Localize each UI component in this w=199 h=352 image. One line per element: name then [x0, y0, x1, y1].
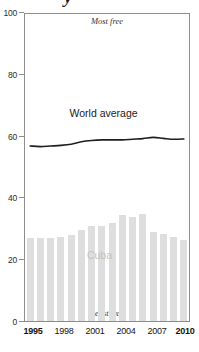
y-tick-100: 100 [0, 7, 24, 19]
y-tick-0: 0 [0, 316, 24, 328]
y-tick-label-100: 100 [3, 7, 17, 19]
y-tick-label-60: 60 [8, 131, 17, 143]
x-tick-1995: 1995 [23, 326, 42, 336]
series-label-cuba: Cuba [87, 249, 112, 261]
series-label-world-average: World average [70, 107, 138, 119]
y-tick-label-40: 40 [8, 192, 17, 204]
world-average-line-path [30, 137, 184, 146]
line-series-world-average [25, 14, 189, 321]
freedom-index-chart: y 100 80 60 40 20 0 Most free Lea [0, 0, 199, 352]
x-tick-2007: 2007 [147, 326, 166, 336]
y-tick-20: 20 [0, 254, 24, 266]
x-axis: 1995 1998 2001 2004 2007 2010 [24, 326, 190, 348]
y-tick-label-80: 80 [8, 69, 17, 81]
y-tick-80: 80 [0, 69, 24, 81]
y-tick-label-20: 20 [8, 254, 17, 266]
x-tick-2001: 2001 [85, 326, 104, 336]
y-tick-label-0: 0 [12, 316, 17, 328]
x-tick-1998: 1998 [54, 326, 73, 336]
cropped-title-descender: y [0, 0, 199, 11]
x-tick-2004: 2004 [116, 326, 135, 336]
y-tick-60: 60 [0, 131, 24, 143]
plot-area: Most free Least free [24, 13, 190, 322]
title-fragment-glyph: y [64, 0, 72, 8]
x-tick-2010: 2010 [175, 326, 194, 336]
y-tick-40: 40 [0, 192, 24, 204]
y-axis: 100 80 60 40 20 0 [0, 0, 24, 352]
